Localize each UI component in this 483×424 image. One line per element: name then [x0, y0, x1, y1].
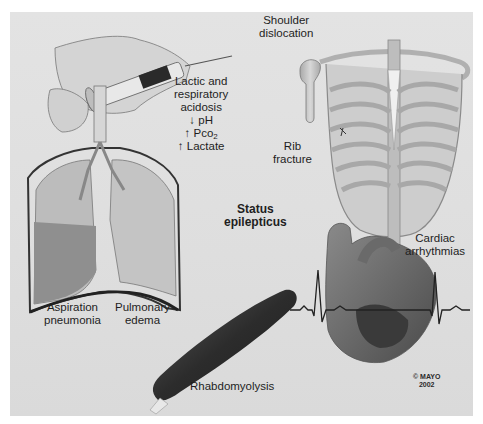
label-line: Rib [273, 140, 312, 153]
label-line: Shoulder [259, 14, 313, 27]
indicator-text: pH [198, 114, 213, 126]
label-line: Aspiration [44, 301, 101, 314]
copyright-year: 2002 [413, 381, 440, 389]
rhabdomyolysis-label: Rhabdomyolysis [190, 380, 274, 393]
lactate-indicator: ↑ Lactate [174, 140, 228, 153]
label-line: fracture [273, 153, 312, 166]
label-line: arrhythmias [405, 245, 465, 258]
indicator-text: Lactate [187, 140, 225, 152]
label-line: Lactic and [174, 75, 228, 88]
label-line: respiratory [174, 88, 228, 101]
acidosis-label: Lactic and respiratory acidosis ↓ pH ↑ P… [174, 75, 228, 153]
ph-indicator: ↓ pH [174, 114, 228, 127]
status-epilepticus-label: Status epilepticus [224, 203, 287, 229]
rib-cage-illustration [320, 40, 468, 250]
arrow-down-icon: ↓ [189, 114, 195, 126]
indicator-text: Pco [194, 127, 214, 139]
label-line: pneumonia [44, 314, 101, 327]
shoulder-dislocation-label: Shoulder dislocation [259, 14, 313, 40]
pco2-indicator: ↑ Pco2 [174, 127, 228, 140]
rib-fracture-label: Rib fracture [273, 140, 312, 166]
arrow-up-icon: ↑ [178, 140, 184, 152]
label-line: dislocation [259, 27, 313, 40]
aspiration-pneumonia-label: Aspiration pneumonia [44, 301, 101, 327]
cardiac-arrhythmias-label: Cardiac arrhythmias [405, 232, 465, 258]
arrow-up-icon: ↑ [185, 127, 191, 139]
label-line: Rhabdomyolysis [190, 380, 274, 393]
humerus-illustration [300, 60, 320, 123]
copyright-notice: © MAYO 2002 [413, 373, 440, 389]
label-line: edema [115, 314, 170, 327]
copyright-line: © MAYO [413, 373, 440, 381]
label-line: acidosis [174, 101, 228, 114]
pulmonary-edema-label: Pulmonary edema [115, 301, 170, 327]
label-line: Pulmonary [115, 301, 170, 314]
label-line: Cardiac [405, 232, 465, 245]
label-line: epilepticus [224, 216, 287, 229]
